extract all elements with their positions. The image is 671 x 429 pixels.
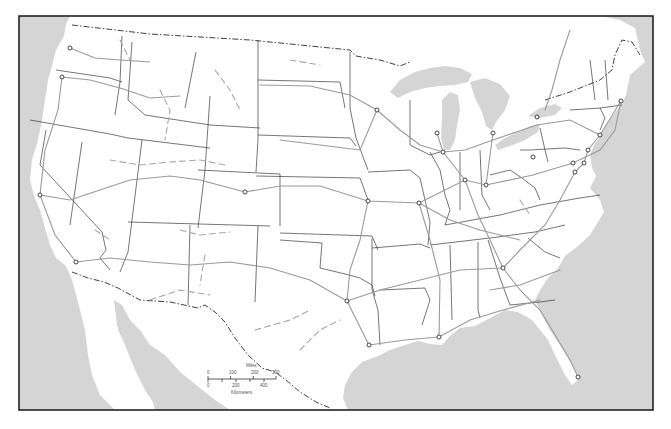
city-new-orleans-marker (437, 335, 441, 339)
city-cleveland-marker (531, 155, 535, 159)
scale-km-label: Kilometers (231, 390, 253, 395)
city-buffalo-marker (535, 115, 539, 119)
city-houston-marker (367, 343, 371, 347)
city-portland-marker (60, 75, 64, 79)
city-boston-marker (619, 99, 623, 103)
map-canvas: Miles 0 100 200 300 0 200 400 Kilometers (0, 0, 671, 429)
scale-mile-tick-200: 200 (251, 370, 259, 375)
city-seattle-marker (68, 46, 72, 50)
city-st-louis-marker (417, 201, 421, 205)
city-denver-marker (243, 190, 247, 194)
city-chicago-marker (441, 150, 445, 154)
city-atlanta-marker (501, 266, 505, 270)
city-cincinnati-marker (484, 183, 488, 187)
city-los-angeles-marker (74, 260, 78, 264)
scale-miles-label: Miles (246, 363, 257, 368)
city-philadelphia-marker (586, 148, 590, 152)
city-new-york-marker (598, 133, 602, 137)
city-kansas-city-marker (366, 199, 370, 203)
city-detroit-marker (491, 131, 495, 135)
scale-km-tick-200: 200 (232, 383, 240, 388)
scale-km-tick-400: 400 (260, 383, 268, 388)
city-minneapolis-marker (375, 108, 379, 112)
scale-mile-tick-100: 100 (229, 370, 237, 375)
city-washington-marker (573, 170, 577, 174)
scale-mile-tick-300: 300 (272, 370, 280, 375)
city-dallas-marker (345, 299, 349, 303)
city-pittsburgh-marker (571, 161, 575, 165)
us-map: Miles 0 100 200 300 0 200 400 Kilometers (0, 0, 671, 429)
city-indianapolis-marker (463, 178, 467, 182)
city-miami-marker (576, 375, 580, 379)
city-san-francisco-marker (38, 193, 42, 197)
city-milwaukee-marker (435, 131, 439, 135)
city-baltimore-marker (582, 161, 586, 165)
